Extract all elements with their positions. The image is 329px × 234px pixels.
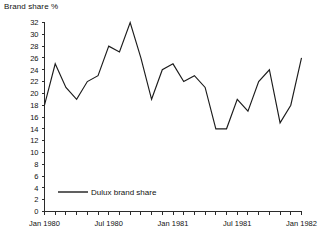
x-axis-tick-label: Jul 1980 — [95, 219, 123, 228]
x-axis-tick-label: Jan 1980 — [29, 219, 60, 228]
series-line-dulux-brand-share — [45, 23, 302, 129]
y-axis-tick-label: 8 — [34, 160, 38, 169]
x-axis-ticks — [45, 212, 302, 216]
y-axis-tick-label: 6 — [34, 172, 38, 181]
y-axis-tick-label: 22 — [30, 77, 38, 86]
y-axis-tick-label: 18 — [30, 101, 38, 110]
y-axis-tick-label: 0 — [34, 207, 38, 216]
x-axis-tick-label: Jul 1981 — [223, 219, 251, 228]
y-axis-tick-label: 2 — [34, 195, 38, 204]
chart-legend: Dulux brand share — [58, 188, 157, 197]
y-axis-ticks: 02468101214161820222426283032 — [30, 18, 44, 216]
y-axis-tick-label: 4 — [34, 184, 38, 193]
y-axis-tick-label: 16 — [30, 113, 38, 122]
y-axis-tick-label: 10 — [30, 148, 38, 157]
y-axis-tick-label: 26 — [30, 54, 38, 63]
y-axis-tick-label: 28 — [30, 42, 38, 51]
brand-share-line-chart: Brand share % 02468101214161820222426283… — [0, 0, 329, 234]
x-axis-group: Jan 1980Jul 1980Jan 1981Jul 1981Jan 1982 — [29, 212, 317, 228]
y-axis-tick-label: 24 — [30, 66, 38, 75]
legend-label-dulux-brand-share: Dulux brand share — [91, 188, 157, 197]
y-axis-tick-label: 12 — [30, 136, 38, 145]
y-axis-group: 02468101214161820222426283032 — [30, 18, 44, 216]
y-axis-tick-label: 14 — [30, 125, 38, 134]
y-axis-tick-label: 32 — [30, 18, 38, 27]
x-axis-tick-labels: Jan 1980Jul 1980Jan 1981Jul 1981Jan 1982 — [29, 219, 317, 228]
y-axis-tick-label: 30 — [30, 30, 38, 39]
x-axis-tick-label: Jan 1981 — [158, 219, 189, 228]
y-axis-tick-label: 20 — [30, 89, 38, 98]
series-group — [45, 23, 302, 129]
x-axis-tick-label: Jan 1982 — [286, 219, 317, 228]
chart-plot-area: 02468101214161820222426283032 Jan 1980Ju… — [0, 0, 329, 234]
